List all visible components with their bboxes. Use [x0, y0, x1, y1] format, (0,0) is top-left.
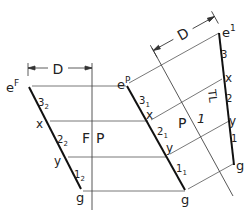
true-length-label: TL	[205, 88, 220, 104]
fold-line-p-1	[152, 48, 233, 196]
right-seg3-label: 3	[221, 49, 227, 60]
view-label-f: F	[82, 130, 90, 146]
right-seg2-label: 2	[226, 93, 232, 104]
left-seg1-label: 12	[74, 169, 85, 183]
middle-x-label: x	[146, 108, 153, 122]
right-seg1-label: 1	[231, 133, 237, 144]
projector-e-oblique	[129, 33, 219, 83]
middle-seg2-label: 21	[157, 126, 168, 140]
descriptive-geometry-diagram: D D eF 32 x 22 y 12 g F P P 1 eP 31 x	[0, 0, 250, 218]
view-label-p-right: P	[178, 115, 186, 131]
left-line-labels: eF 32 x 22 y 12 g	[6, 78, 85, 205]
dimension-d-left-label: D	[53, 61, 64, 77]
right-line-labels: e1 3 x 2 y 1 g TL	[205, 23, 244, 173]
left-e-label: eF	[6, 78, 19, 95]
view-label-1: 1	[197, 111, 205, 126]
left-y-label: y	[54, 154, 61, 168]
diagram-svg: D D eF 32 x 22 y 12 g F P P 1 eP 31 x	[0, 0, 250, 218]
right-e-label: e1	[222, 23, 236, 40]
dimension-d-right: D	[149, 10, 218, 58]
left-g-label: g	[76, 190, 84, 205]
middle-seg3-label: 31	[139, 95, 150, 109]
middle-g-label: g	[181, 192, 189, 207]
middle-y-label: y	[166, 141, 173, 155]
middle-line-labels: eP 31 x 21 y 11 g	[117, 75, 189, 207]
middle-line-e-g	[127, 86, 185, 190]
dimension-d-right-label: D	[174, 24, 191, 43]
right-x-label: x	[225, 71, 232, 85]
view-label-p-left: P	[96, 130, 104, 146]
projector-g-oblique	[188, 164, 233, 189]
left-x-label: x	[36, 117, 43, 131]
right-y-label: y	[229, 114, 236, 128]
right-g-label: g	[236, 158, 244, 173]
